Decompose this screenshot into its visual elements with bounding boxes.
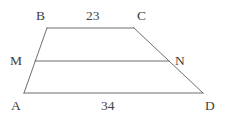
- vertex-label-A: A: [11, 99, 21, 112]
- vertex-label-C: C: [137, 9, 146, 22]
- measure-label-bottom-side: 34: [101, 99, 115, 112]
- midpoint-label-M: M: [10, 54, 22, 67]
- measure-label-top-side: 23: [86, 9, 100, 22]
- vertex-label-B: B: [36, 9, 45, 22]
- midpoint-label-N: N: [175, 54, 185, 67]
- geometry-figure: B C A D M N 23 34: [0, 0, 226, 121]
- vertex-label-D: D: [205, 99, 215, 112]
